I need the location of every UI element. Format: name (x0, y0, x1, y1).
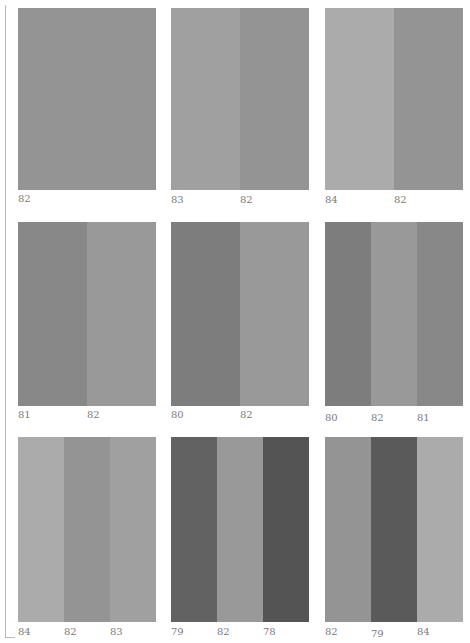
swatch-panel-r2c3 (325, 222, 463, 406)
stripe (18, 437, 64, 622)
stripe (417, 222, 463, 406)
stripe (217, 437, 263, 622)
value-label: 82 (240, 409, 253, 421)
value-label: 81 (417, 412, 430, 424)
left-rule (5, 5, 6, 638)
stripe (325, 8, 394, 190)
stripe (171, 8, 240, 190)
swatch-panel-r2c2 (171, 222, 309, 406)
stripe (325, 222, 371, 406)
stripe (325, 437, 371, 622)
swatch-panel-r1c3 (325, 8, 463, 190)
stripe (171, 222, 240, 406)
value-label: 79 (371, 628, 384, 640)
value-label: 80 (171, 409, 184, 421)
stripe (87, 222, 156, 406)
value-label: 83 (171, 194, 184, 206)
value-label: 82 (87, 409, 100, 421)
value-label: 82 (394, 194, 407, 206)
stripe (18, 8, 156, 190)
stripe (240, 222, 309, 406)
value-label: 84 (18, 626, 31, 638)
value-label: 82 (217, 626, 230, 638)
value-label: 83 (110, 626, 123, 638)
stripe (417, 437, 463, 622)
value-label: 82 (371, 412, 384, 424)
stripe (263, 437, 309, 622)
left-rule-foot (5, 637, 15, 638)
value-label: 82 (18, 193, 31, 205)
swatch-panel-r3c2 (171, 437, 309, 622)
value-label: 82 (240, 194, 253, 206)
swatch-panel-r2c1 (18, 222, 156, 406)
value-label: 82 (64, 626, 77, 638)
swatch-panel-r1c1 (18, 8, 156, 190)
value-label: 79 (171, 626, 184, 638)
value-label: 84 (417, 626, 430, 638)
stripe (394, 8, 463, 190)
value-label: 81 (18, 409, 31, 421)
swatch-panel-r3c1 (18, 437, 156, 622)
swatch-panel-r3c3 (325, 437, 463, 622)
stripe (171, 437, 217, 622)
stripe (18, 222, 87, 406)
stripe (64, 437, 110, 622)
stripe (371, 222, 417, 406)
stripe (371, 437, 417, 622)
value-label: 84 (325, 194, 338, 206)
stripe (110, 437, 156, 622)
value-label: 80 (325, 412, 338, 424)
value-label: 82 (325, 626, 338, 638)
swatch-panel-r1c2 (171, 8, 309, 190)
stripe (240, 8, 309, 190)
value-label: 78 (263, 626, 276, 638)
